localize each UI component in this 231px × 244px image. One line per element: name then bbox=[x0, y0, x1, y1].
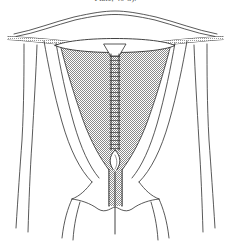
right-broad-ligament bbox=[194, 44, 215, 232]
figure-page: Plate, 40-3). bbox=[0, 0, 231, 244]
cervical-canal bbox=[109, 170, 122, 206]
vaginal-fornix-left bbox=[62, 199, 80, 240]
left-broad-ligament bbox=[16, 44, 37, 232]
uterine-fundus-outline bbox=[14, 11, 217, 37]
uterus-iud-illustration bbox=[0, 0, 231, 244]
vaginal-fornix-right bbox=[151, 199, 169, 240]
